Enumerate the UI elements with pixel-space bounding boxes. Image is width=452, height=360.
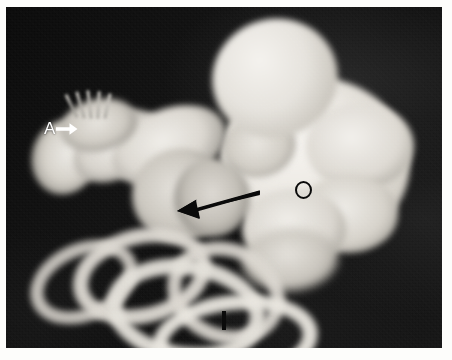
photograph-plate: A O I bbox=[6, 7, 442, 348]
annotation-label-o: O bbox=[295, 181, 312, 199]
annotation-label-a: A bbox=[44, 120, 78, 137]
figure-root: A O I bbox=[0, 0, 452, 360]
white-arrow-right-icon bbox=[56, 122, 78, 136]
annotation-label-o-text: O bbox=[297, 183, 298, 184]
annotation-label-a-text: A bbox=[44, 120, 55, 137]
annotation-label-i-text: I bbox=[222, 311, 223, 312]
photograph-film-grain bbox=[6, 7, 442, 348]
annotation-label-i: I bbox=[222, 311, 226, 330]
black-arrow-left-icon bbox=[174, 189, 260, 223]
